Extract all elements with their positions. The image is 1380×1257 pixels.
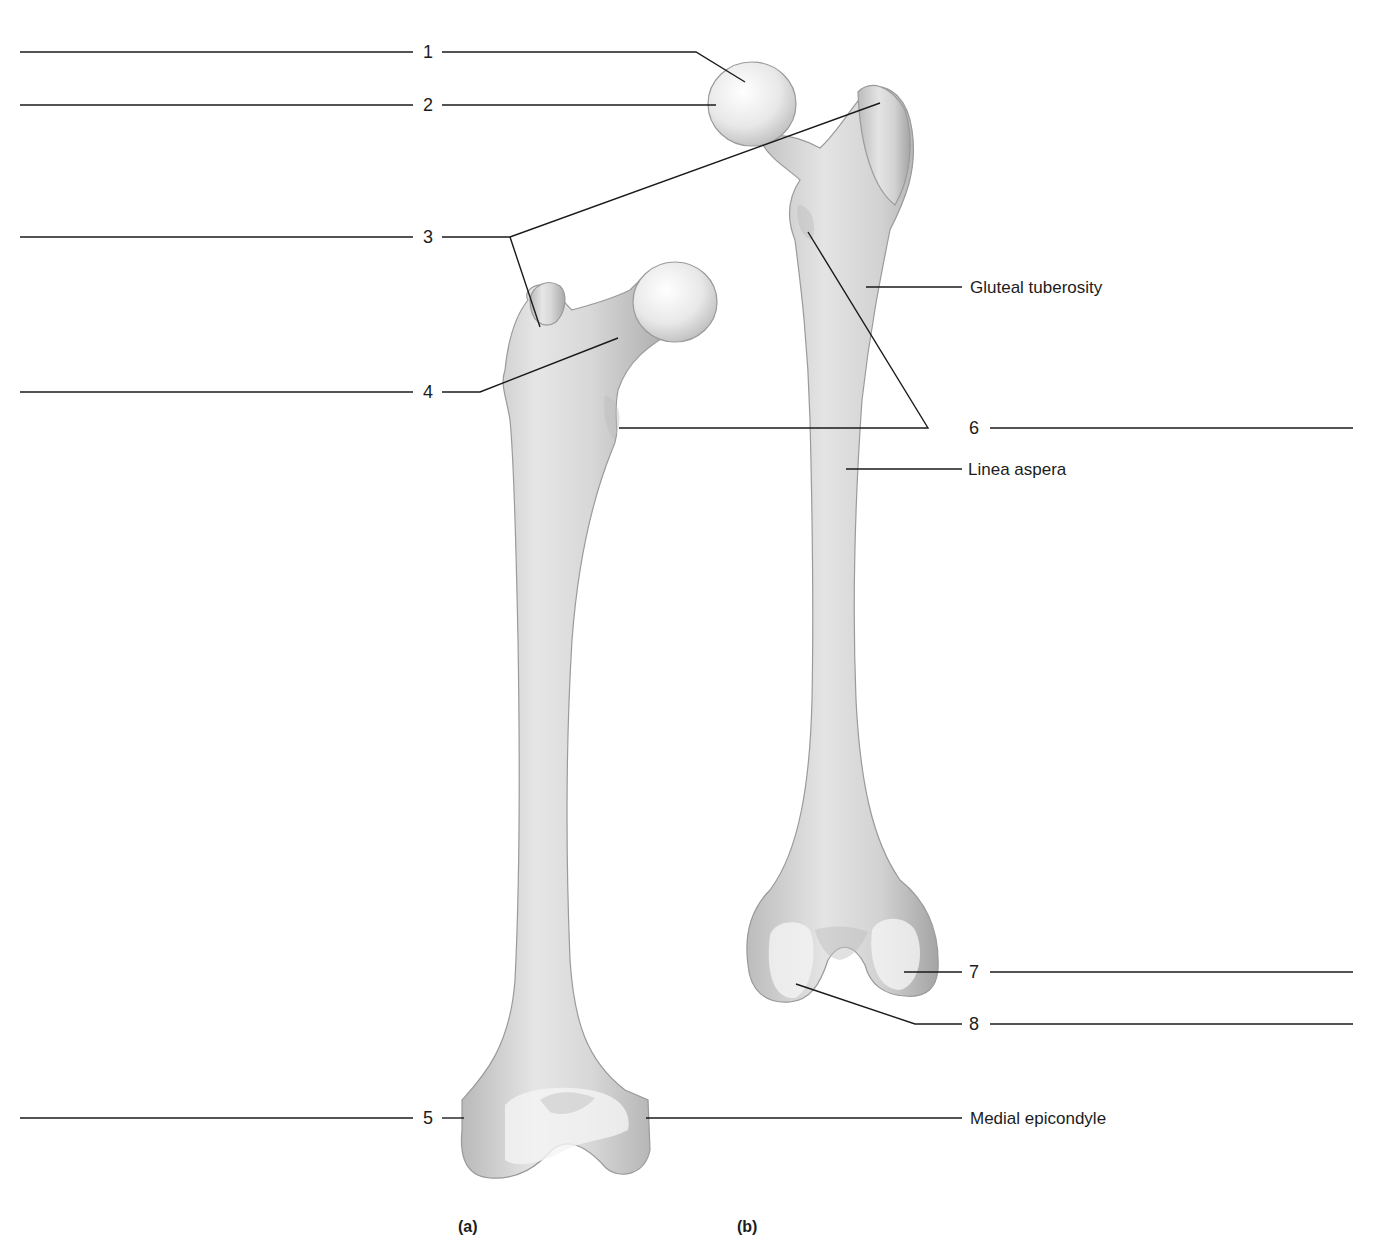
femur-anterior-view bbox=[461, 262, 717, 1178]
label-2: 2 bbox=[423, 95, 433, 115]
femoral-head-b bbox=[708, 62, 796, 146]
label-4: 4 bbox=[423, 382, 433, 402]
femur-posterior-view bbox=[708, 62, 938, 1002]
label-6: 6 bbox=[969, 418, 979, 438]
panel-caption-a: (a) bbox=[458, 1218, 478, 1235]
named-labels: Gluteal tuberosity Linea aspera Medial e… bbox=[968, 278, 1106, 1128]
label-medial-epicondyle: Medial epicondyle bbox=[970, 1109, 1106, 1128]
label-8: 8 bbox=[969, 1014, 979, 1034]
femur-diagram: 1 2 3 4 5 6 7 8 Gluteal tuberosity Linea… bbox=[0, 0, 1380, 1257]
answer-lines-right bbox=[990, 428, 1353, 1024]
femoral-head-a bbox=[633, 262, 717, 342]
label-linea-aspera: Linea aspera bbox=[968, 460, 1067, 479]
label-3: 3 bbox=[423, 227, 433, 247]
answer-lines-left bbox=[20, 52, 413, 1118]
label-7: 7 bbox=[969, 962, 979, 982]
panel-caption-b: (b) bbox=[737, 1218, 757, 1235]
label-1: 1 bbox=[423, 42, 433, 62]
label-5: 5 bbox=[423, 1108, 433, 1128]
label-gluteal-tuberosity: Gluteal tuberosity bbox=[970, 278, 1103, 297]
